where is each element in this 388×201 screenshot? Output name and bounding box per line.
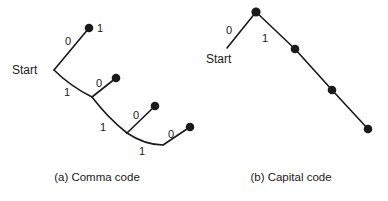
figure-container: 0 1 0 1 0 1 0 1 Start 0 1 bbox=[0, 0, 388, 201]
leaf-node bbox=[85, 24, 94, 33]
leaf-node bbox=[112, 74, 121, 83]
edge-label-bit: 1 bbox=[262, 32, 268, 44]
panel-comma-code: 0 1 0 1 0 1 0 1 Start bbox=[12, 22, 194, 157]
edge-branch2-branch3 bbox=[92, 97, 127, 133]
edge-root-leaf1 bbox=[54, 28, 89, 70]
start-label: Start bbox=[206, 52, 232, 66]
caption-capital-code: (b) Capital code bbox=[194, 171, 388, 183]
chain-node bbox=[328, 86, 337, 95]
edge-label-bit: 1 bbox=[64, 86, 70, 98]
leaf-annotation: 1 bbox=[97, 22, 103, 34]
edge-label-bit: 1 bbox=[100, 121, 106, 133]
leaf-node bbox=[186, 123, 195, 132]
apex-node bbox=[251, 7, 260, 16]
chain-node bbox=[291, 45, 300, 54]
edge-branch3-leaf3 bbox=[127, 106, 155, 133]
edge-label-bit: 0 bbox=[168, 128, 174, 140]
caption-comma-code: (a) Comma code bbox=[0, 171, 194, 183]
panel-capital-code: 0 1 Start bbox=[206, 7, 372, 133]
start-label: Start bbox=[12, 63, 38, 77]
edge-root-branch2 bbox=[54, 70, 92, 97]
chain-node bbox=[364, 125, 373, 134]
edge-chain2-chain3 bbox=[332, 90, 368, 129]
edge-chain1-chain2 bbox=[295, 49, 332, 90]
leaf-node bbox=[151, 102, 160, 111]
edge-label-bit: 0 bbox=[96, 77, 102, 89]
edge-label-bit: 0 bbox=[133, 109, 139, 121]
edge-label-bit: 0 bbox=[65, 35, 71, 47]
edge-label-bit: 1 bbox=[139, 145, 145, 157]
edge-branch3-branch4 bbox=[127, 133, 163, 145]
edge-label-bit: 0 bbox=[226, 24, 232, 36]
